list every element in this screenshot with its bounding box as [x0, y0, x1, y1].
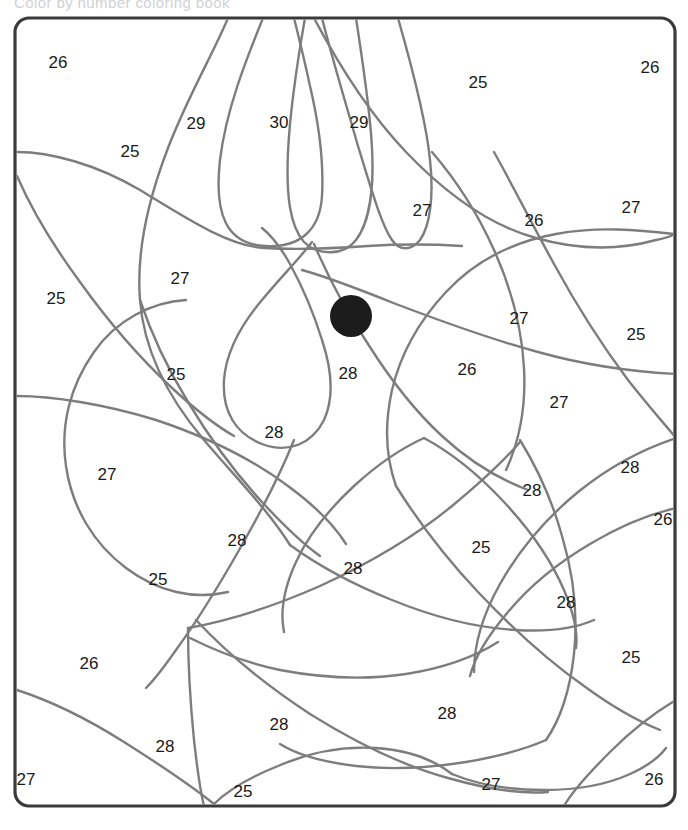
region-number-25: 25: [627, 325, 646, 344]
eye-dot-group: [330, 295, 372, 337]
region-number-28: 28: [270, 715, 289, 734]
region-number-26: 26: [49, 53, 68, 72]
puzzle-frame: [15, 18, 675, 806]
region-number-29: 29: [350, 113, 369, 132]
region-number-25: 25: [234, 782, 253, 801]
region-number-28: 28: [339, 364, 358, 383]
region-number-28: 28: [523, 481, 542, 500]
region-number-28: 28: [438, 704, 457, 723]
region-number-25: 25: [622, 648, 641, 667]
region-number-28: 28: [621, 458, 640, 477]
region-number-25: 25: [472, 538, 491, 557]
region-number-26: 26: [645, 770, 664, 789]
region-number-27: 27: [510, 309, 529, 328]
region-number-27: 27: [622, 198, 641, 217]
region-number-27: 27: [98, 465, 117, 484]
eye-dot: [330, 295, 372, 337]
region-number-26: 26: [654, 510, 673, 529]
region-number-27: 27: [482, 775, 501, 794]
region-number-27: 27: [550, 393, 569, 412]
region-number-28: 28: [344, 559, 363, 578]
region-number-27: 27: [17, 770, 36, 789]
worksheet-page: Color by number coloring book 2625293029…: [0, 0, 688, 830]
region-number-26: 26: [641, 58, 660, 77]
color-by-number-puzzle: 2625293029252627262727252725252826272827…: [0, 0, 688, 830]
region-number-27: 27: [171, 269, 190, 288]
region-number-29: 29: [187, 114, 206, 133]
region-number-25: 25: [47, 289, 66, 308]
region-number-26: 26: [80, 654, 99, 673]
region-number-25: 25: [469, 73, 488, 92]
region-number-27: 27: [413, 201, 432, 220]
region-number-26: 26: [525, 211, 544, 230]
region-number-28: 28: [156, 737, 175, 756]
region-number-25: 25: [121, 142, 140, 161]
region-number-25: 25: [167, 365, 186, 384]
region-number-28: 28: [557, 593, 576, 612]
region-number-26: 26: [458, 360, 477, 379]
region-number-30: 30: [270, 113, 289, 132]
region-number-25: 25: [149, 570, 168, 589]
region-number-28: 28: [265, 423, 284, 442]
region-number-28: 28: [228, 531, 247, 550]
